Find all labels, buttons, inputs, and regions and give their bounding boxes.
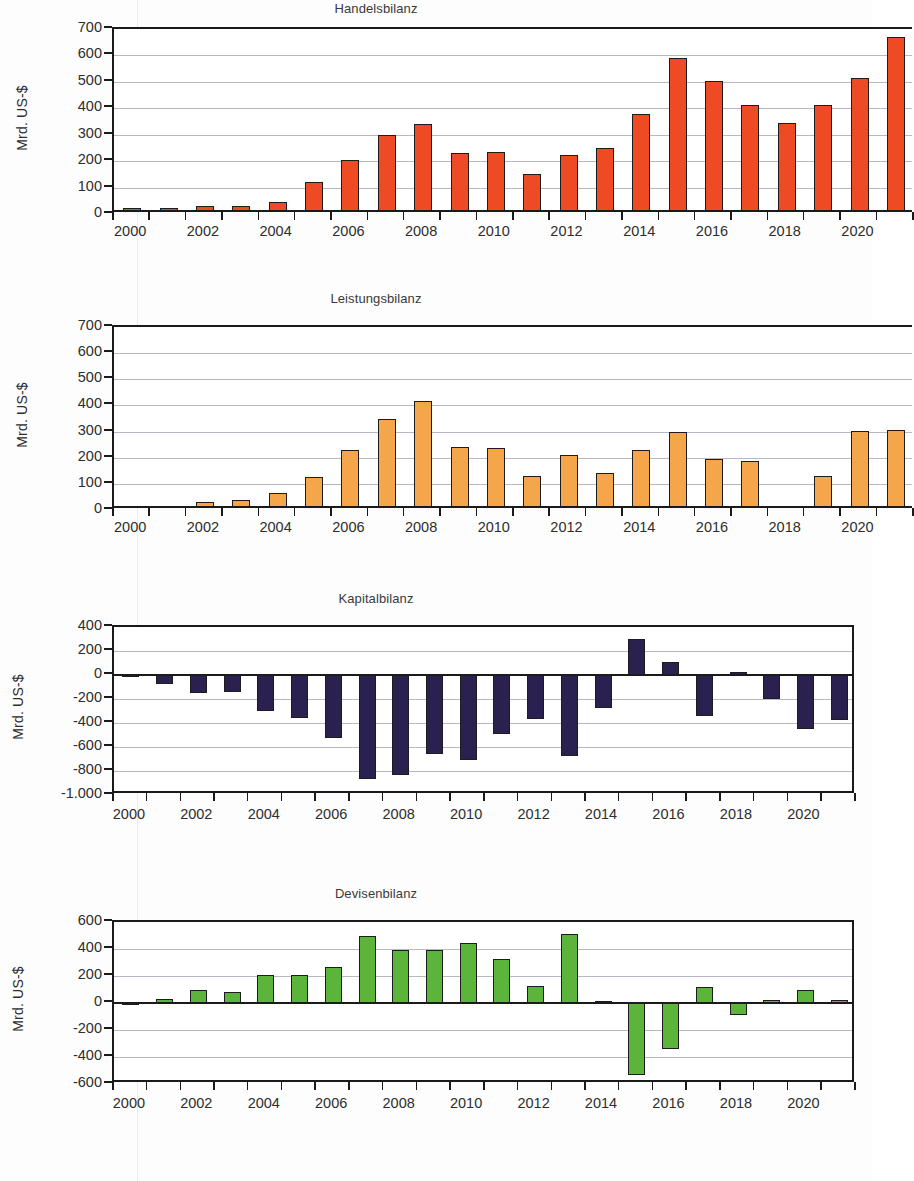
bar — [414, 124, 432, 212]
y-tick-label: 100 — [78, 179, 102, 194]
x-tick-label: 2014 — [571, 807, 631, 822]
y-tick-mark — [104, 376, 112, 378]
bar — [493, 675, 510, 734]
y-tick-label: -200 — [73, 690, 102, 705]
chart-title-handelsbilanz: Handelsbilanz — [0, 0, 872, 17]
x-tick-label: 2012 — [537, 224, 597, 239]
x-tick-mark — [548, 508, 550, 516]
gridline — [114, 1030, 852, 1031]
x-tick-mark — [112, 508, 114, 516]
x-tick-mark — [483, 1082, 485, 1090]
gridline — [114, 723, 852, 724]
gridline — [114, 55, 912, 56]
gridline — [114, 484, 912, 485]
y-tick-label: -1.000 — [61, 786, 102, 801]
x-tick-label: 2000 — [99, 1096, 159, 1111]
y-tick-label: -200 — [73, 1021, 102, 1036]
x-tick-mark — [294, 212, 296, 220]
y-tick-mark — [104, 696, 112, 698]
x-tick-mark — [876, 212, 878, 220]
bar — [523, 174, 541, 212]
gridline — [114, 108, 912, 109]
y-tick-label: -400 — [73, 714, 102, 729]
y-tick-mark — [104, 973, 112, 975]
y-tick-mark — [104, 185, 112, 187]
y-axis-label-leistungsbilanz: Mrd. US-$ — [14, 375, 30, 455]
x-tick-label: 2004 — [246, 224, 306, 239]
x-tick-mark — [803, 212, 805, 220]
bar — [705, 459, 723, 508]
x-tick-mark — [820, 1082, 822, 1090]
y-tick-label: 400 — [78, 396, 102, 411]
x-tick-mark — [148, 508, 150, 516]
bar — [123, 506, 141, 508]
x-tick-mark — [730, 212, 732, 220]
x-tick-mark — [180, 793, 182, 801]
y-tick-mark — [104, 672, 112, 674]
x-tick-mark — [281, 793, 283, 801]
x-tick-mark — [449, 1082, 451, 1090]
chart-title-devisenbilanz: Devisenbilanz — [0, 885, 872, 902]
x-tick-mark — [330, 212, 332, 220]
x-tick-mark — [658, 508, 660, 516]
x-tick-label: 2016 — [682, 224, 742, 239]
gridline — [114, 976, 852, 977]
gridline — [114, 771, 852, 772]
y-tick-mark — [104, 946, 112, 948]
y-tick-mark — [104, 919, 112, 921]
x-tick-mark — [221, 508, 223, 516]
bar — [232, 500, 250, 508]
y-axis-label-kapitalbilanz: Mrd. US-$ — [10, 667, 26, 747]
x-tick-mark — [439, 212, 441, 220]
x-tick-mark — [767, 212, 769, 220]
bar — [378, 419, 396, 509]
x-tick-label: 2016 — [639, 807, 699, 822]
y-tick-mark — [104, 350, 112, 352]
gridline — [114, 432, 912, 433]
y-tick-label: 300 — [78, 423, 102, 438]
x-tick-label: 2010 — [464, 520, 524, 535]
x-tick-label: 2004 — [234, 807, 294, 822]
x-tick-label: 2006 — [301, 1096, 361, 1111]
y-tick-mark — [104, 507, 112, 509]
y-tick-label: 200 — [78, 449, 102, 464]
x-tick-label: 2014 — [571, 1096, 631, 1111]
x-tick-label: 2002 — [166, 807, 226, 822]
bar — [669, 58, 687, 212]
y-tick-mark — [104, 624, 112, 626]
x-tick-label: 2006 — [318, 520, 378, 535]
x-tick-mark — [146, 1082, 148, 1090]
y-tick-mark — [104, 1081, 112, 1083]
x-tick-mark — [330, 508, 332, 516]
y-tick-mark — [104, 455, 112, 457]
x-tick-mark — [112, 793, 114, 801]
bar — [156, 999, 173, 1003]
plot-frame-handelsbilanz — [112, 27, 912, 212]
x-tick-label: 2018 — [755, 224, 815, 239]
y-tick-mark — [104, 792, 112, 794]
bar — [814, 105, 832, 212]
gridline — [114, 458, 912, 459]
x-tick-mark — [348, 1082, 350, 1090]
bar — [561, 934, 578, 1003]
x-tick-mark — [382, 1082, 384, 1090]
x-tick-mark — [416, 1082, 418, 1090]
x-tick-mark — [767, 508, 769, 516]
y-tick-label: 0 — [94, 994, 102, 1009]
x-tick-mark — [112, 1082, 114, 1090]
gridline — [114, 82, 912, 83]
y-tick-mark — [104, 1000, 112, 1002]
bar — [887, 37, 905, 212]
x-tick-label: 2000 — [100, 224, 160, 239]
y-tick-label: -600 — [73, 738, 102, 753]
x-tick-mark — [854, 1082, 856, 1090]
y-tick-label: -800 — [73, 762, 102, 777]
x-tick-mark — [719, 793, 721, 801]
x-tick-label: 2018 — [706, 1096, 766, 1111]
x-tick-mark — [281, 1082, 283, 1090]
y-tick-mark — [104, 744, 112, 746]
bar — [269, 493, 287, 508]
y-tick-mark — [104, 402, 112, 404]
bar — [122, 1003, 139, 1005]
x-tick-mark — [585, 508, 587, 516]
